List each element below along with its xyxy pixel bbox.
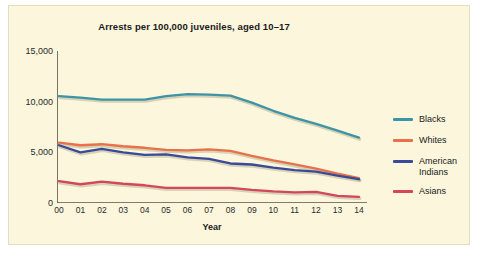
legend-label: Blacks — [419, 114, 478, 125]
legend-swatch-icon — [393, 118, 413, 121]
series-line-blacks — [59, 94, 359, 138]
legend-swatch-icon — [393, 160, 413, 163]
x-tick-label: 07 — [198, 205, 220, 215]
x-tick-label: 04 — [134, 205, 156, 215]
y-axis-tick-labels: 05,00010,00015,000 — [9, 51, 53, 203]
y-tick-label: 10,000 — [11, 97, 53, 107]
x-tick-label: 13 — [327, 205, 349, 215]
x-tick-label: 01 — [69, 205, 91, 215]
legend-item: Whites — [393, 135, 478, 147]
figure: Arrests per 100,000 juveniles, aged 10–1… — [0, 0, 478, 257]
y-tick-label: 5,000 — [11, 147, 53, 157]
legend-label: Asians — [419, 186, 478, 197]
x-tick-label: 09 — [241, 205, 263, 215]
x-tick-label: 00 — [48, 205, 70, 215]
x-tick-label: 11 — [284, 205, 306, 215]
series-shadow-0 — [60, 96, 360, 140]
legend-label: Whites — [419, 135, 478, 146]
series-shadow-3 — [60, 183, 360, 199]
legend-item: Asians — [393, 186, 478, 198]
x-tick-label: 14 — [348, 205, 370, 215]
y-tick-label: 15,000 — [11, 46, 53, 56]
x-tick-label: 05 — [155, 205, 177, 215]
legend-swatch-icon — [393, 190, 413, 193]
x-axis-label: Year — [57, 222, 367, 232]
legend-item: Blacks — [393, 114, 478, 126]
chart-title: Arrests per 100,000 juveniles, aged 10–1… — [9, 21, 379, 32]
chart-svg — [57, 51, 367, 203]
plot-area — [57, 51, 367, 203]
chart-panel: Arrests per 100,000 juveniles, aged 10–1… — [8, 5, 470, 245]
x-tick-label: 10 — [262, 205, 284, 215]
y-tick-label: 0 — [11, 198, 53, 208]
chart-legend: BlacksWhitesAmerican IndiansAsians — [393, 114, 478, 207]
x-tick-label: 02 — [91, 205, 113, 215]
x-axis-tick-labels: 000102030405060708091011121314 — [57, 205, 367, 221]
legend-item: American Indians — [393, 156, 478, 177]
x-tick-label: 06 — [177, 205, 199, 215]
legend-label: American Indians — [419, 156, 478, 177]
x-tick-label: 12 — [305, 205, 327, 215]
x-tick-label: 08 — [219, 205, 241, 215]
x-tick-label: 03 — [112, 205, 134, 215]
legend-swatch-icon — [393, 139, 413, 142]
